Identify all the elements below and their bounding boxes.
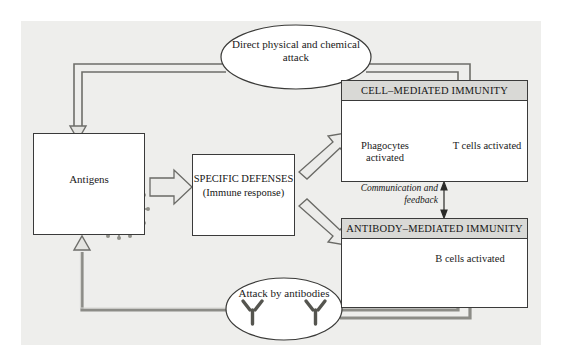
t-cells-activated-caption: T cells activated — [452, 140, 522, 152]
cell-mediated-immunity-box: CELL–MEDIATED IMMUNITY — [341, 80, 528, 182]
communication-feedback-arrow — [441, 182, 447, 218]
direct-attack-label: Direct physical and chemical attack — [222, 38, 370, 63]
diagram-page: CELL–MEDIATED IMMUNITY ANTIBODY–MEDIATED… — [0, 0, 568, 362]
phagocytes-activated-caption: Phagocytes activated — [345, 140, 425, 164]
connector-ami-to-antibody — [340, 308, 470, 318]
connector-direct-attack-right — [366, 64, 470, 80]
connector-direct-attack-left — [74, 64, 226, 128]
arrowhead-into-antigens-bottom — [74, 236, 90, 250]
connector-antibody-left-highlight — [81, 252, 229, 308]
attack-by-antibodies-label: Attack by antibodies — [228, 287, 340, 300]
connector-antibody-left — [82, 252, 228, 310]
specific-defenses-label: SPECIFIC DEFENSES (Immune response) — [192, 172, 295, 200]
antigens-label: Antigens — [33, 173, 145, 185]
cell-mediated-immunity-header: CELL–MEDIATED IMMUNITY — [342, 81, 527, 101]
communication-feedback-label: Communication and feedback — [330, 183, 438, 207]
b-cells-activated-caption: B cells activated — [432, 253, 508, 265]
arrow-antigens-to-specific — [150, 170, 192, 204]
antibody-mediated-immunity-header: ANTIBODY–MEDIATED IMMUNITY — [342, 219, 527, 239]
